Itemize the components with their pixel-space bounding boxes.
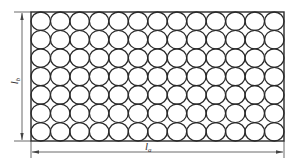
packed-circle (89, 12, 108, 30)
packed-circle (109, 12, 128, 30)
packed-circle (89, 104, 108, 122)
circle-packing-diagram: lb la (0, 0, 294, 163)
packed-circle (50, 104, 69, 122)
packed-circle (245, 123, 264, 141)
packed-circle (187, 123, 206, 141)
packed-circle (70, 123, 89, 141)
packed-circle (148, 49, 167, 67)
packed-circle (265, 86, 284, 104)
packed-circle (89, 67, 108, 85)
packed-circle (206, 67, 225, 85)
packed-circle (245, 67, 264, 85)
packed-circle (31, 67, 50, 85)
packed-circle (226, 104, 245, 122)
packed-circle (226, 86, 245, 104)
packed-circle (128, 104, 147, 122)
packed-circle (50, 86, 69, 104)
packed-circle (265, 67, 284, 85)
packed-circle (206, 30, 225, 48)
packed-circle (89, 30, 108, 48)
packed-circle (226, 30, 245, 48)
packed-circle (206, 12, 225, 30)
packed-circle (187, 104, 206, 122)
container-outline (31, 12, 284, 141)
packed-circle (50, 12, 69, 30)
arrow-down-icon (20, 133, 23, 140)
packed-circle (50, 67, 69, 85)
packed-circle (70, 104, 89, 122)
packed-circle (245, 86, 264, 104)
width-label: la (145, 140, 152, 154)
packed-circle (187, 49, 206, 67)
arrow-up-icon (20, 13, 23, 20)
packed-circle (89, 49, 108, 67)
packed-circle (206, 104, 225, 122)
packed-circle (50, 123, 69, 141)
packed-circle (187, 86, 206, 104)
packed-circle (89, 123, 108, 141)
packed-circle (167, 86, 186, 104)
packed-circle (89, 86, 108, 104)
packed-circle (148, 67, 167, 85)
packed-circle (31, 30, 50, 48)
packed-circle (70, 49, 89, 67)
packed-circle (128, 12, 147, 30)
packed-circle (70, 12, 89, 30)
circle-grid (31, 12, 284, 141)
height-label: lb (8, 77, 22, 84)
packed-circle (50, 30, 69, 48)
packed-circle (31, 123, 50, 141)
packed-circle (109, 123, 128, 141)
arrow-left-icon (32, 150, 39, 153)
packed-circle (128, 49, 147, 67)
packed-circle (187, 12, 206, 30)
width-dimension (31, 141, 284, 158)
packed-circle (245, 12, 264, 30)
packed-circle (245, 49, 264, 67)
packed-circle (109, 86, 128, 104)
packed-circle (128, 67, 147, 85)
packed-circle (206, 49, 225, 67)
packed-circle (109, 30, 128, 48)
packed-circle (148, 30, 167, 48)
packed-circle (109, 49, 128, 67)
packed-circle (167, 104, 186, 122)
packed-circle (148, 104, 167, 122)
packed-circle (167, 123, 186, 141)
packed-circle (128, 30, 147, 48)
packed-circle (70, 67, 89, 85)
packed-circle (50, 49, 69, 67)
packed-circle (226, 49, 245, 67)
packed-circle (109, 104, 128, 122)
packed-circle (206, 86, 225, 104)
packed-circle (187, 67, 206, 85)
packed-circle (109, 67, 128, 85)
packed-circle (70, 30, 89, 48)
packed-circle (31, 49, 50, 67)
arrow-right-icon (276, 150, 283, 153)
packed-circle (167, 49, 186, 67)
packed-circle (128, 86, 147, 104)
packed-circle (70, 86, 89, 104)
packed-circle (245, 104, 264, 122)
packed-circle (187, 30, 206, 48)
packed-circle (31, 104, 50, 122)
packed-circle (31, 86, 50, 104)
packed-circle (265, 30, 284, 48)
packed-circle (265, 123, 284, 141)
packed-circle (226, 67, 245, 85)
packed-circle (226, 123, 245, 141)
packed-circle (167, 30, 186, 48)
packed-circle (245, 30, 264, 48)
packed-circle (265, 104, 284, 122)
packed-circle (167, 67, 186, 85)
packed-circle (206, 123, 225, 141)
packed-circle (265, 49, 284, 67)
height-dimension (14, 12, 31, 141)
packed-circle (226, 12, 245, 30)
packed-circle (31, 12, 50, 30)
packed-circle (148, 123, 167, 141)
packed-circle (265, 12, 284, 30)
packed-circle (128, 123, 147, 141)
packed-circle (148, 12, 167, 30)
